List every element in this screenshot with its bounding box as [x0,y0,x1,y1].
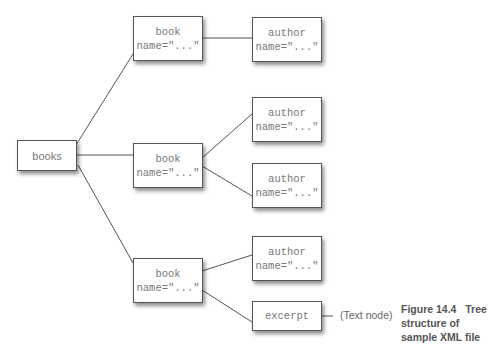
book-node-1: book name="..." [133,16,203,61]
author-name-attr: name="..." [255,186,318,200]
books-node: books [17,140,77,171]
author-name-attr: name="..." [255,120,318,134]
author-node-2: author name="..." [252,97,322,142]
book-label: book [155,267,180,281]
author-name-attr: name="..." [255,40,318,54]
xml-tree-diagram: books book name="..." book name="..." bo… [0,0,498,360]
author-node-3: author name="..." [252,163,322,208]
book-node-2: book name="..." [133,143,203,188]
book-label: book [155,25,180,39]
books-label: books [32,149,61,163]
book-name-attr: name="..." [136,166,199,180]
figure-caption: Figure 14.4 Tree structure of sample XML… [401,302,498,344]
book-name-attr: name="..." [136,281,199,295]
author-node-1: author name="..." [252,17,322,62]
excerpt-node: excerpt [252,301,322,331]
author-name-attr: name="..." [255,259,318,273]
book-node-3: book name="..." [133,258,203,303]
author-node-4: author name="..." [252,236,322,281]
author-label: author [268,106,306,120]
figure-number: Figure 14.4 [401,303,456,315]
author-label: author [268,172,306,186]
text-node-annotation: (Text node) [340,309,393,321]
book-label: book [155,152,180,166]
author-label: author [268,26,306,40]
excerpt-label: excerpt [265,309,309,323]
book-name-attr: name="..." [136,39,199,53]
author-label: author [268,245,306,259]
